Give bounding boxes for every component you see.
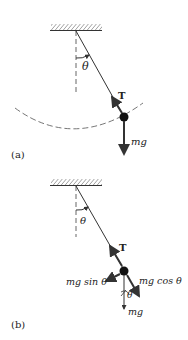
tangential-component-label: mg sin θ	[66, 276, 107, 287]
radial-component-label: mg cos θ	[139, 275, 182, 286]
pendulum-diagram: θ T mg (a) θ T mg sin θ mg cos θ θ mg (b…	[0, 0, 188, 340]
panel-a: θ T mg (a)	[11, 24, 147, 160]
angle-label: θ	[80, 215, 86, 226]
panel-b: θ T mg sin θ mg cos θ θ mg (b)	[11, 179, 182, 330]
weight-label: mg	[128, 306, 143, 317]
pendulum-bob	[120, 113, 129, 122]
panel-label-b: (b)	[11, 319, 25, 330]
pendulum-bob	[120, 267, 129, 276]
ceiling-support	[50, 24, 102, 31]
panel-label-a: (a)	[11, 149, 25, 160]
angle-arc	[76, 55, 89, 58]
ceiling-support	[50, 179, 102, 186]
angle-label: θ	[82, 60, 89, 73]
small-angle-label: θ	[127, 290, 133, 300]
tension-label: T	[119, 242, 127, 253]
tangential-component-arrow	[106, 274, 120, 281]
tension-label: T	[118, 90, 126, 101]
angle-arc	[76, 207, 88, 210]
weight-label: mg	[131, 136, 147, 147]
